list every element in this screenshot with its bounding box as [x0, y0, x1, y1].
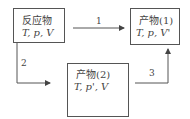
product1-vars: T, p, V': [136, 27, 170, 39]
edge-label-3: 3: [149, 68, 155, 78]
product2-vars: T, p', V: [74, 81, 108, 93]
reactant-box: 反应物 T, p, V: [13, 8, 65, 43]
edge-label-2: 2: [21, 58, 27, 68]
product2-box: 产物(2) T, p', V: [67, 63, 129, 117]
product1-title: 产物(1): [139, 15, 173, 27]
product1-box: 产物(1) T, p, V': [130, 8, 180, 45]
reactant-vars: T, p, V: [22, 27, 54, 39]
product2-title: 产物(2): [76, 69, 110, 81]
edge-label-1: 1: [96, 16, 102, 26]
reactant-title: 反应物: [22, 15, 52, 27]
